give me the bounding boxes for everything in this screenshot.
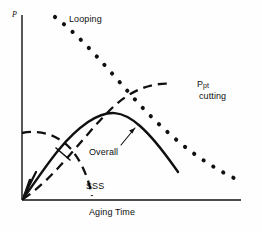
y-axis-label: P (12, 10, 17, 19)
chart-figure: P Looping Pptcutting Overall SSS Aging T… (0, 0, 262, 232)
ppt-second-line-text: cutting (199, 91, 226, 102)
series-label-sss: SSS (86, 181, 104, 191)
plot-canvas (0, 0, 262, 232)
series-label-overall: Overall (89, 147, 118, 157)
crossing-tick (56, 148, 70, 160)
series-label-looping: Looping (69, 14, 102, 24)
ppt-subscript-text: pt (203, 82, 209, 89)
overall-leader-arrowhead (129, 128, 135, 134)
series-label-ppt-cutting: Pptcutting (197, 79, 226, 102)
x-axis-label: Aging Time (89, 207, 135, 217)
